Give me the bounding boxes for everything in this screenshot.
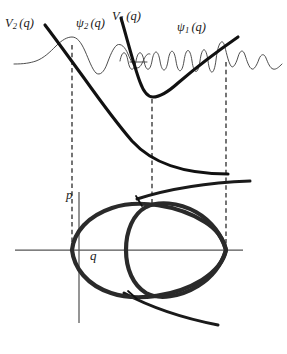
figure-root: V2(q) ψ2(q) V1(q) ψ1(q) p q bbox=[0, 0, 287, 354]
label-psi1-argument: (q) bbox=[189, 20, 206, 34]
label-V1-argument: (q) bbox=[124, 9, 141, 23]
label-potential-V2: V2(q) bbox=[5, 17, 34, 31]
label-wave-psi2: ψ2(q) bbox=[76, 17, 105, 31]
label-axis-q: q bbox=[90, 249, 97, 262]
potential-group bbox=[45, 18, 238, 174]
label-axis-p: p bbox=[66, 188, 73, 201]
label-psi2-argument: (q) bbox=[88, 16, 105, 30]
wave-psi2-curve bbox=[14, 37, 150, 74]
label-V2-symbol: V bbox=[5, 16, 13, 30]
wave-psi1-curve bbox=[120, 42, 282, 72]
label-potential-V1: V1(q) bbox=[112, 10, 141, 24]
upper-open-branch bbox=[137, 181, 250, 199]
label-psi2-symbol: ψ bbox=[76, 16, 84, 30]
label-psi1-symbol: ψ bbox=[177, 20, 185, 34]
phase-space-axes bbox=[15, 192, 243, 323]
wavefunction-group bbox=[14, 37, 282, 74]
label-V2-argument: (q) bbox=[17, 16, 34, 30]
label-wave-psi1: ψ1(q) bbox=[177, 21, 206, 35]
diagram-canvas bbox=[0, 0, 287, 354]
label-V1-symbol: V bbox=[112, 9, 120, 23]
